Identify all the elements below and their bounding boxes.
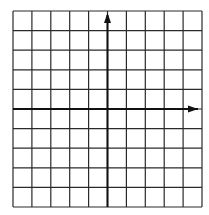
- coordinate-grid: [0, 0, 209, 215]
- y-axis-arrow-icon: [104, 13, 111, 23]
- x-axis-arrow-icon: [188, 106, 198, 113]
- axes: [13, 13, 198, 207]
